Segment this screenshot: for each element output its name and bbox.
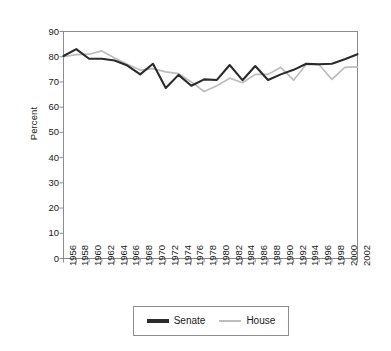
legend-item-senate: Senate — [147, 316, 206, 326]
x-tick-label: 1968 — [144, 244, 154, 265]
legend-label-senate: Senate — [174, 316, 206, 326]
x-tick-label: 1958 — [80, 244, 90, 265]
x-tick-label: 1956 — [68, 244, 78, 265]
x-tick-label: 1986 — [259, 244, 269, 265]
x-tick-label: 1990 — [285, 244, 295, 265]
x-tick-label: 1998 — [336, 244, 346, 265]
x-tick-label: 1960 — [93, 244, 103, 265]
x-tick-label: 1984 — [246, 244, 256, 265]
x-tick-label: 1970 — [157, 244, 167, 265]
legend-item-house: House — [219, 316, 275, 326]
x-tick-label: 1964 — [119, 244, 129, 265]
x-tick-label: 2000 — [349, 244, 359, 265]
x-tick-label: 1994 — [310, 244, 320, 265]
x-tick-label: 1962 — [106, 244, 116, 265]
x-tick-label: 1974 — [183, 244, 193, 265]
x-tick-label: 2002 — [362, 244, 372, 265]
x-tick-label: 1996 — [323, 244, 333, 265]
legend-swatch-senate-icon — [147, 319, 169, 322]
x-tick-label: 1966 — [131, 244, 141, 265]
legend-label-house: House — [246, 316, 275, 326]
legend-swatch-house-icon — [219, 320, 241, 323]
x-tick-label: 1988 — [272, 244, 282, 265]
x-axis-tick-labels: 1956195819601962196419661968197019721974… — [0, 0, 391, 351]
x-tick-label: 1972 — [170, 244, 180, 265]
x-tick-label: 1992 — [298, 244, 308, 265]
chart-container: Percent 0102030405060708090 195619581960… — [0, 0, 391, 351]
x-tick-label: 1982 — [234, 244, 244, 265]
x-tick-label: 1978 — [208, 244, 218, 265]
x-tick-label: 1976 — [195, 244, 205, 265]
chart-legend: Senate House — [133, 306, 289, 336]
x-tick-label: 1980 — [221, 244, 231, 265]
